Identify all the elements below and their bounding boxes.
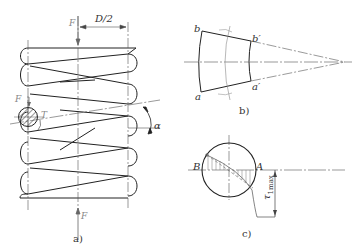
label-force-bottom: F	[81, 212, 87, 221]
helix-angle-arc	[143, 107, 152, 134]
label-force-section: F	[15, 95, 21, 104]
label-b: b	[194, 24, 200, 34]
label-point-B: B	[193, 162, 200, 172]
label-force-top: F	[69, 19, 75, 28]
label-torque: T	[41, 111, 47, 120]
caption-c: c)	[242, 229, 252, 239]
label-b-prime: b′	[252, 34, 261, 44]
label-tau-max: τ1max	[262, 175, 275, 200]
tau-symbol: τ	[261, 194, 272, 200]
label-point-A: A	[256, 162, 263, 172]
label-a: a	[195, 92, 201, 102]
force-arrow-top	[76, 16, 80, 45]
label-helix-angle: α	[154, 121, 161, 131]
element-construction-lines	[184, 26, 352, 100]
spring-stress-diagram: F D/2 F T α F a) b b′ a a′ b) B A τ1max …	[0, 0, 360, 252]
caption-a: a)	[73, 234, 83, 244]
label-half-diameter: D/2	[95, 14, 113, 24]
label-a-prime: a′	[252, 82, 260, 92]
tau-subscript: 1max	[267, 175, 275, 194]
caption-b: b)	[239, 106, 249, 116]
diagram-drawing	[0, 0, 360, 252]
helical-spring	[20, 48, 137, 198]
